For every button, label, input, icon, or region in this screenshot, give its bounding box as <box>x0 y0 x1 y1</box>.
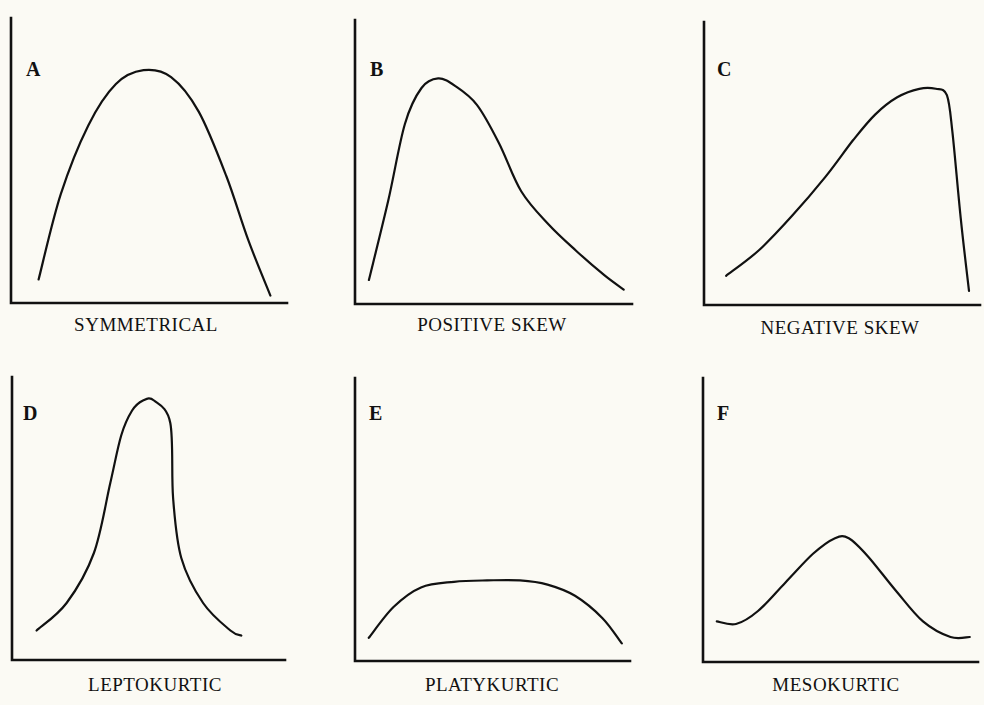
panel-a-letter: A <box>26 58 41 80</box>
panel-a-caption: SYMMETRICAL <box>74 314 218 335</box>
panel-e-letter: E <box>369 402 382 424</box>
panel-f-caption: MESOKURTIC <box>772 674 899 695</box>
panel-f-curve <box>717 536 970 638</box>
panel-e-axes <box>355 378 630 661</box>
panel-c: C NEGATIVE SKEW <box>704 22 980 338</box>
panel-b-letter: B <box>370 58 383 80</box>
panel-f-axes <box>703 378 978 662</box>
panel-a-axes <box>11 18 287 303</box>
panel-c-caption: NEGATIVE SKEW <box>760 317 919 338</box>
panel-e: E PLATYKURTIC <box>355 378 630 695</box>
distribution-shapes-figure: A SYMMETRICAL B POSITIVE SKEW C NEGATIVE… <box>0 0 984 705</box>
panel-d-caption: LEPTOKURTIC <box>88 674 222 695</box>
panel-c-curve <box>726 88 969 291</box>
panel-c-letter: C <box>717 58 731 80</box>
panel-d-curve <box>37 398 242 635</box>
panel-b-curve <box>369 78 624 289</box>
panel-a-curve <box>39 70 271 296</box>
panel-e-caption: PLATYKURTIC <box>425 674 559 695</box>
panel-f-letter: F <box>717 402 729 424</box>
panel-a: A SYMMETRICAL <box>11 18 287 335</box>
panel-d: D LEPTOKURTIC <box>12 377 285 695</box>
panel-d-letter: D <box>23 402 37 424</box>
panel-b: B POSITIVE SKEW <box>355 20 632 335</box>
panel-f: F MESOKURTIC <box>703 378 978 695</box>
panel-b-caption: POSITIVE SKEW <box>417 314 567 335</box>
panel-e-curve <box>369 580 622 643</box>
